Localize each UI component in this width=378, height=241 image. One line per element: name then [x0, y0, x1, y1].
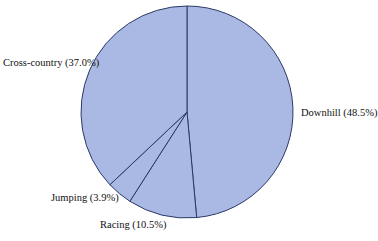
pie-slice-downhill [187, 6, 293, 218]
slice-label-downhill: Downhill (48.5%) [301, 107, 377, 119]
pie-chart-figure: Cross-country (37.0%) Downhill (48.5%) J… [0, 0, 378, 241]
slice-label-racing: Racing (10.5%) [100, 219, 166, 231]
slice-label-jumping: Jumping (3.9%) [51, 192, 119, 204]
slice-label-cross-country: Cross-country (37.0%) [3, 57, 99, 69]
pie-slice-group [81, 6, 293, 218]
pie-chart-svg [0, 0, 378, 241]
